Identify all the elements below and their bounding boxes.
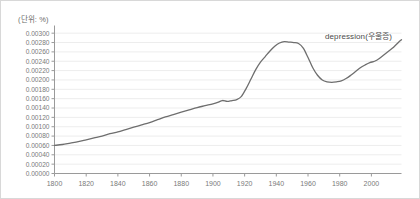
x-tick-label: 1800 bbox=[47, 180, 63, 187]
y-tick-label: 0.00240 bbox=[26, 58, 50, 65]
y-tick-label: 0.00300 bbox=[26, 30, 50, 37]
y-tick-label: 0.00260 bbox=[26, 48, 50, 55]
x-tick-labels: 1800182018401860188019001920194019601980… bbox=[47, 180, 380, 187]
y-tick-label: 0.00140 bbox=[26, 104, 50, 111]
y-tick-label: 0.00060 bbox=[26, 142, 50, 149]
series-line-depression bbox=[55, 40, 402, 146]
y-tick-labels: 0.000000.000200.000400.000600.000800.001… bbox=[26, 30, 50, 177]
x-tick-label: 1900 bbox=[205, 180, 221, 187]
y-tick-label: 0.00180 bbox=[26, 86, 50, 93]
y-tick-label: 0.00280 bbox=[26, 39, 50, 46]
x-tick-label: 1820 bbox=[78, 180, 94, 187]
chart-container: (단위: %) 0.000000.000200.000400.000600.00… bbox=[0, 0, 420, 199]
x-tick-label: 1840 bbox=[110, 180, 126, 187]
x-tick-label: 1980 bbox=[332, 180, 348, 187]
y-tick-label: 0.00000 bbox=[26, 170, 50, 177]
x-axis bbox=[55, 174, 402, 177]
y-tick-label: 0.00100 bbox=[26, 123, 50, 130]
y-tick-label: 0.00220 bbox=[26, 67, 50, 74]
series-depression-line bbox=[55, 40, 402, 146]
x-tick-label: 1960 bbox=[300, 180, 316, 187]
x-tick-label: 2000 bbox=[364, 180, 380, 187]
y-tick-label: 0.00200 bbox=[26, 76, 50, 83]
y-tick-label: 0.00120 bbox=[26, 114, 50, 121]
series-label-depression: depression(우울증) bbox=[325, 30, 392, 41]
y-tick-label: 0.00040 bbox=[26, 151, 50, 158]
x-tick-label: 1940 bbox=[269, 180, 285, 187]
x-tick-label: 1920 bbox=[237, 180, 253, 187]
y-tick-label: 0.00020 bbox=[26, 161, 50, 168]
x-tick-label: 1880 bbox=[173, 180, 189, 187]
x-tick-label: 1860 bbox=[142, 180, 158, 187]
y-tick-label: 0.00160 bbox=[26, 95, 50, 102]
gridlines bbox=[55, 33, 402, 164]
y-tick-label: 0.00080 bbox=[26, 132, 50, 139]
y-axis bbox=[52, 26, 55, 174]
